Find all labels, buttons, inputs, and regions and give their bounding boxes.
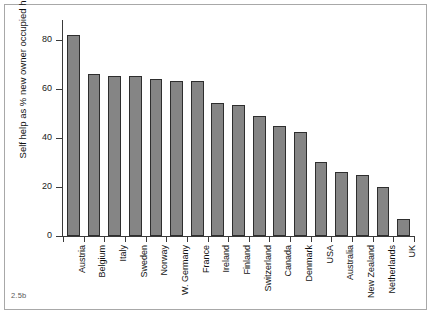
bar bbox=[67, 35, 80, 236]
x-axis-label: Netherlands bbox=[387, 245, 397, 294]
x-axis-label-text: Norway bbox=[159, 245, 169, 276]
x-axis-label-text: Denmark bbox=[304, 245, 314, 282]
x-tick-mark bbox=[84, 237, 85, 242]
x-axis-label: USA bbox=[325, 245, 335, 264]
x-axis-label-text: Belgium bbox=[97, 245, 107, 278]
y-tick-label: 0 bbox=[0, 230, 52, 240]
bar bbox=[377, 187, 390, 236]
x-axis-label: Switzerland bbox=[263, 245, 273, 292]
x-axis-label-text: Finland bbox=[242, 245, 252, 275]
y-tick-label-wrap: 60 bbox=[0, 89, 52, 90]
x-axis-label-text: Netherlands bbox=[387, 245, 397, 294]
x-tick-mark bbox=[414, 237, 415, 242]
y-tick-label-wrap: 0 bbox=[0, 236, 52, 237]
x-axis-label-text: USA bbox=[325, 245, 335, 264]
x-axis-label-text: Canada bbox=[283, 245, 293, 277]
x-axis-label-text: Italy bbox=[118, 245, 128, 262]
x-tick-mark bbox=[331, 237, 332, 242]
x-axis-label-text: Sweden bbox=[139, 245, 149, 278]
x-tick-mark bbox=[373, 237, 374, 242]
bar bbox=[191, 81, 204, 236]
x-axis-label-text: New Zealand bbox=[366, 245, 376, 298]
y-tick-mark bbox=[56, 89, 62, 90]
x-tick-mark bbox=[187, 237, 188, 242]
x-tick-mark bbox=[166, 237, 167, 242]
x-axis-label-text: Australia bbox=[345, 245, 355, 280]
y-tick-mark bbox=[56, 187, 62, 188]
x-axis-label: Norway bbox=[159, 245, 169, 276]
y-tick-mark bbox=[56, 236, 62, 237]
x-axis-label: UK bbox=[407, 245, 417, 258]
x-axis-label: New Zealand bbox=[366, 245, 376, 298]
x-axis-label-text: Ireland bbox=[221, 245, 231, 273]
x-tick-mark bbox=[269, 237, 270, 242]
x-axis-label-text: W. Germany bbox=[180, 245, 190, 295]
x-tick-mark bbox=[393, 237, 394, 242]
x-axis-label: W. Germany bbox=[180, 245, 190, 295]
bar bbox=[356, 175, 369, 236]
bar bbox=[211, 103, 224, 236]
x-axis-label: Sweden bbox=[139, 245, 149, 278]
x-tick-mark bbox=[208, 237, 209, 242]
x-axis-label: France bbox=[201, 245, 211, 273]
bar bbox=[108, 76, 121, 236]
bar bbox=[129, 76, 142, 236]
bar bbox=[315, 162, 328, 236]
x-axis-label: Austria bbox=[77, 245, 87, 273]
x-axis-label: Canada bbox=[283, 245, 293, 277]
bar-series bbox=[63, 20, 415, 237]
x-axis-label: Australia bbox=[345, 245, 355, 280]
bar bbox=[150, 79, 163, 236]
x-axis-label: Belgium bbox=[97, 245, 107, 278]
x-tick-mark bbox=[290, 237, 291, 242]
bar bbox=[253, 116, 266, 236]
bar bbox=[170, 81, 183, 236]
x-tick-mark bbox=[125, 237, 126, 242]
y-tick-label: 40 bbox=[0, 132, 52, 142]
y-tick-label: 80 bbox=[0, 34, 52, 44]
x-tick-mark bbox=[311, 237, 312, 242]
x-tick-mark bbox=[146, 237, 147, 242]
y-tick-mark bbox=[56, 138, 62, 139]
x-axis-label: Ireland bbox=[221, 245, 231, 273]
y-tick-label-wrap: 20 bbox=[0, 187, 52, 188]
x-axis-label: Denmark bbox=[304, 245, 314, 282]
bar bbox=[294, 132, 307, 236]
x-axis-label-text: Austria bbox=[77, 245, 87, 273]
x-tick-mark bbox=[63, 237, 64, 242]
figure-caption: 2.5b bbox=[11, 291, 26, 300]
y-tick-label-wrap: 40 bbox=[0, 138, 52, 139]
x-axis-label-text: France bbox=[201, 245, 211, 273]
bar bbox=[88, 74, 101, 236]
bar bbox=[335, 172, 348, 236]
bar bbox=[397, 219, 410, 236]
x-tick-mark bbox=[104, 237, 105, 242]
y-tick-label: 60 bbox=[0, 83, 52, 93]
x-axis-label-text: UK bbox=[407, 245, 417, 258]
bar bbox=[232, 105, 245, 236]
bar bbox=[273, 126, 286, 236]
y-tick-label-wrap: 80 bbox=[0, 40, 52, 41]
y-tick-label: 20 bbox=[0, 181, 52, 191]
x-axis-label: Italy bbox=[118, 245, 128, 262]
x-tick-mark bbox=[228, 237, 229, 242]
y-tick-mark bbox=[56, 40, 62, 41]
x-tick-mark bbox=[352, 237, 353, 242]
x-axis-label-text: Switzerland bbox=[263, 245, 273, 292]
x-axis-label: Finland bbox=[242, 245, 252, 275]
x-tick-mark bbox=[249, 237, 250, 242]
figure-container: Self help as % new owner occupied housin… bbox=[0, 0, 433, 316]
